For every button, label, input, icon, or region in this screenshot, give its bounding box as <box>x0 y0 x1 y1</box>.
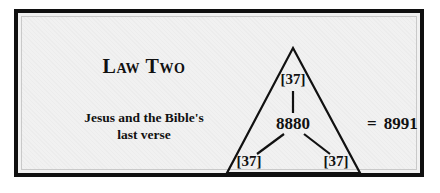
law-heading: Law Two <box>64 55 224 78</box>
law-caption: Jesus and the Bible's last verse <box>50 109 238 143</box>
triangle-node-bottom-right: [37] <box>308 153 364 170</box>
triangle-node-bottom-left: [37] <box>221 153 277 170</box>
triangle-diagram: [37] 8880 [37] [37] <box>212 31 372 181</box>
figure-outer-frame: Law Two Jesus and the Bible's last verse <box>14 9 424 177</box>
figure-canvas: Law Two Jesus and the Bible's last verse <box>22 17 416 169</box>
figure-inner-rule: Law Two Jesus and the Bible's last verse <box>21 16 417 170</box>
figure-root: Law Two Jesus and the Bible's last verse <box>0 0 440 193</box>
connector-center-to-bottom-right <box>304 134 330 154</box>
triangle-node-top: [37] <box>262 71 324 88</box>
law-caption-line-1: Jesus and the Bible's <box>50 109 238 126</box>
equals-sign: = <box>367 114 377 133</box>
connector-center-to-bottom-left <box>257 134 284 154</box>
result-value: 8991 <box>384 114 418 133</box>
result-expression: =8991 <box>367 114 418 134</box>
law-caption-line-2: last verse <box>50 126 238 143</box>
triangle-node-center: 8880 <box>256 114 330 134</box>
